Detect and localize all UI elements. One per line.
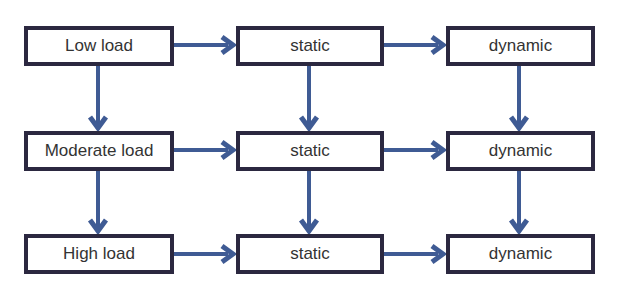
node-label: dynamic xyxy=(489,244,552,264)
arrow-static-to-dynamic-row1 xyxy=(384,37,443,53)
node-high-static: static xyxy=(236,234,384,274)
arrow-high-to-static xyxy=(174,246,233,262)
node-label: Low load xyxy=(65,36,133,56)
arrow-moderate-to-high xyxy=(90,171,106,231)
load-flow-diagram: Low load static dynamic Moderate load st… xyxy=(0,0,617,292)
node-label: dynamic xyxy=(489,141,552,161)
arrow-dynamic-row2-to-row3 xyxy=(511,171,527,231)
node-low-dynamic: dynamic xyxy=(446,26,595,66)
arrow-moderate-to-static xyxy=(174,142,233,158)
node-label: Moderate load xyxy=(45,141,154,161)
node-label: static xyxy=(290,141,330,161)
node-low-load: Low load xyxy=(24,26,174,66)
node-label: static xyxy=(290,36,330,56)
arrow-dynamic-row1-to-row2 xyxy=(511,66,527,128)
arrow-static-row2-to-row3 xyxy=(301,171,317,231)
arrow-static-to-dynamic-row2 xyxy=(384,142,443,158)
arrow-static-row1-to-row2 xyxy=(301,66,317,128)
node-low-static: static xyxy=(236,26,384,66)
node-moderate-dynamic: dynamic xyxy=(446,131,595,171)
node-label: dynamic xyxy=(489,36,552,56)
node-label: High load xyxy=(63,244,135,264)
node-label: static xyxy=(290,244,330,264)
node-high-load: High load xyxy=(24,234,174,274)
arrow-static-to-dynamic-row3 xyxy=(384,246,443,262)
node-high-dynamic: dynamic xyxy=(446,234,595,274)
arrow-low-to-static xyxy=(174,37,233,53)
node-moderate-load: Moderate load xyxy=(24,131,174,171)
arrow-low-to-moderate xyxy=(90,66,106,128)
node-moderate-static: static xyxy=(236,131,384,171)
